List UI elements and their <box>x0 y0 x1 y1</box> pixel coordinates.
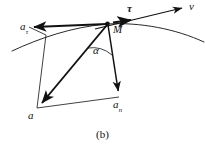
label-tangent-unit-vector: τ <box>127 3 132 14</box>
point-m-marker <box>105 22 110 27</box>
vector-diagram-figure: aτ an a α M τ v (b) <box>0 0 205 148</box>
total-acceleration-vector <box>42 25 107 103</box>
label-point-m: M <box>113 24 122 35</box>
angle-arc-alpha <box>88 48 112 55</box>
diagram-canvas <box>0 0 205 148</box>
figure-caption: (b) <box>0 128 205 140</box>
parallelogram-side-left <box>37 35 46 108</box>
parallelogram-side-bottom <box>37 97 119 108</box>
label-velocity: v <box>189 1 194 12</box>
label-normal-acceleration: an <box>113 99 122 113</box>
label-total-acceleration: a <box>28 110 34 121</box>
parallelogram-side-top-stub <box>29 27 46 35</box>
label-tangential-acceleration: aτ <box>20 21 28 35</box>
label-angle-alpha: α <box>93 45 99 56</box>
